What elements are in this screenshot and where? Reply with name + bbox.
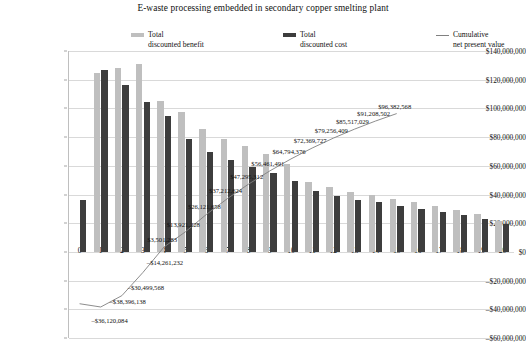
npv-data-label-year-7: $37,212,624 bbox=[209, 187, 242, 194]
legend-label-cost: Total discounted cost bbox=[300, 30, 347, 51]
legend-label-benefit: Total discounted benefit bbox=[148, 30, 204, 51]
chart-title: E-waste processing embedded in secondary… bbox=[0, 3, 526, 13]
bar-cost-year-0 bbox=[80, 200, 86, 252]
bar-benefit-year-7 bbox=[221, 139, 227, 252]
bar-benefit-year-12 bbox=[326, 187, 332, 252]
bar-cost-year-14 bbox=[376, 202, 382, 252]
bar-benefit-year-3 bbox=[136, 64, 142, 252]
y-axis-tick-mark bbox=[64, 137, 67, 138]
bar-benefit-year-2 bbox=[115, 68, 121, 252]
bar-benefit-year-8 bbox=[242, 146, 248, 251]
y-axis-tick-label: $0 bbox=[460, 247, 526, 256]
npv-data-label-year-8: $47,295,312 bbox=[230, 173, 263, 180]
legend-swatch-benefit bbox=[131, 33, 144, 37]
bar-cost-year-9 bbox=[270, 173, 276, 252]
bar-benefit-year-19 bbox=[474, 214, 480, 252]
bar-benefit-year-10 bbox=[284, 164, 290, 252]
y-axis-tick-label: $100,000,000 bbox=[460, 104, 526, 113]
npv-data-label-year-1: –$38,396,138 bbox=[110, 297, 146, 304]
y-axis-tick-label: –$40,000,000 bbox=[460, 305, 526, 314]
y-axis-tick-label: $20,000,000 bbox=[460, 219, 526, 228]
bar-benefit-year-11 bbox=[305, 182, 311, 252]
bar-benefit-year-6 bbox=[199, 129, 205, 252]
chart-figure: E-waste processing embedded in secondary… bbox=[0, 0, 526, 349]
y-axis-tick-mark bbox=[64, 309, 67, 310]
bar-cost-year-2 bbox=[122, 85, 128, 251]
y-axis-tick-mark bbox=[64, 108, 67, 109]
bar-cost-year-17 bbox=[440, 212, 446, 251]
y-axis-tick-label: –$60,000,000 bbox=[460, 334, 526, 343]
bar-benefit-year-14 bbox=[369, 195, 375, 252]
bar-cost-year-16 bbox=[418, 209, 424, 252]
chart-legend: Total discounted benefit Total discounte… bbox=[131, 19, 521, 45]
y-axis-tick-mark bbox=[64, 51, 67, 52]
y-axis-tick-label: $120,000,000 bbox=[460, 75, 526, 84]
y-axis-tick-mark bbox=[64, 338, 67, 339]
bar-benefit-year-5 bbox=[178, 112, 184, 252]
y-axis-tick-label: $40,000,000 bbox=[460, 190, 526, 199]
npv-data-label-year-15: $96,382,568 bbox=[378, 102, 411, 109]
bar-cost-year-12 bbox=[334, 196, 340, 252]
y-axis-tick-label: –$20,000,000 bbox=[460, 276, 526, 285]
bar-cost-year-4 bbox=[165, 116, 171, 252]
y-axis-tick-mark bbox=[64, 280, 67, 281]
y-axis-tick-label: $80,000,000 bbox=[460, 133, 526, 142]
npv-data-label-year-3: –$14,261,232 bbox=[147, 259, 183, 266]
npv-data-label-year-14: $91,208,502 bbox=[357, 110, 390, 117]
npv-data-label-year-12: $79,256,409 bbox=[315, 127, 348, 134]
y-axis-tick-label: $140,000,000 bbox=[460, 47, 526, 56]
y-axis-tick-mark bbox=[64, 223, 67, 224]
legend-swatch-cost bbox=[283, 33, 296, 37]
y-axis-tick-mark bbox=[64, 79, 67, 80]
gridline bbox=[69, 309, 514, 310]
bar-cost-year-13 bbox=[355, 200, 361, 252]
legend-line-npv bbox=[436, 35, 449, 36]
bar-benefit-year-18 bbox=[453, 210, 459, 252]
bar-cost-year-18 bbox=[461, 215, 467, 252]
bar-cost-year-1 bbox=[101, 70, 107, 252]
npv-data-label-year-13: $85,517,029 bbox=[336, 118, 369, 125]
gridline bbox=[69, 338, 514, 339]
npv-data-label-year-2: –$30,499,568 bbox=[128, 283, 164, 290]
npv-data-label-year-11: $72,369,727 bbox=[294, 137, 327, 144]
bar-benefit-year-17 bbox=[432, 206, 438, 252]
npv-data-label-year-0: –$36,120,084 bbox=[91, 316, 127, 323]
gridline bbox=[69, 51, 514, 52]
bar-cost-year-11 bbox=[313, 191, 319, 252]
y-axis-tick-label: $60,000,000 bbox=[460, 161, 526, 170]
bar-benefit-year-4 bbox=[157, 101, 163, 252]
bar-cost-year-19 bbox=[482, 219, 488, 252]
npv-data-label-year-5: $13,921,228 bbox=[167, 220, 200, 227]
npv-data-label-year-10: $64,794,376 bbox=[273, 147, 306, 154]
bar-benefit-year-13 bbox=[347, 192, 353, 252]
npv-data-label-year-6: $26,121,658 bbox=[188, 203, 221, 210]
bar-benefit-year-1 bbox=[94, 73, 100, 252]
y-axis-tick-mark bbox=[64, 194, 67, 195]
bar-cost-year-3 bbox=[144, 102, 150, 252]
bar-cost-year-10 bbox=[292, 181, 298, 252]
bar-cost-year-20 bbox=[503, 224, 509, 252]
y-axis-tick-mark bbox=[64, 251, 67, 252]
y-axis-tick-mark bbox=[64, 165, 67, 166]
bar-cost-year-5 bbox=[186, 139, 192, 252]
npv-data-label-year-4: $3,501,283 bbox=[147, 235, 177, 242]
bar-benefit-year-15 bbox=[390, 199, 396, 252]
bar-benefit-year-9 bbox=[263, 154, 269, 252]
gridline bbox=[69, 281, 514, 282]
npv-data-label-year-9: $56,461,491 bbox=[251, 159, 284, 166]
legend-item-total-discounted-cost: Total discounted cost bbox=[283, 19, 347, 51]
bar-benefit-year-20 bbox=[495, 221, 501, 252]
bar-cost-year-15 bbox=[397, 206, 403, 252]
legend-item-total-discounted-benefit: Total discounted benefit bbox=[131, 19, 204, 51]
bar-benefit-year-16 bbox=[411, 202, 417, 252]
